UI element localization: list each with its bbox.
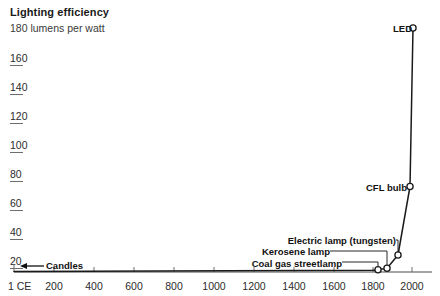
data-point-electric-lamp-tungsten[interactable] <box>395 252 401 258</box>
annotation-cfl-bulb: CFL bulb <box>366 182 407 193</box>
annotation-coal-gas-streetlamp: Coal gas streetlamp <box>252 258 342 269</box>
annotation-candles: Candles <box>46 260 83 271</box>
data-point-kerosene-lamp[interactable] <box>384 265 390 271</box>
lighting-efficiency-chart: Lighting efficiency 180 lumens per watt … <box>0 0 440 296</box>
plot-area <box>0 0 440 296</box>
annotation-kerosene-lamp: Kerosene lamp <box>262 246 330 257</box>
annotation-led: LED <box>393 23 412 34</box>
data-point-coal-gas-streetlamp[interactable] <box>375 267 381 273</box>
leader-tungsten <box>396 240 398 252</box>
data-point-cfl-bulb[interactable] <box>407 183 413 189</box>
annotation-electric-lamp-tungsten: Electric lamp (tungsten) <box>288 235 396 246</box>
candles-arrow-icon <box>20 263 44 269</box>
